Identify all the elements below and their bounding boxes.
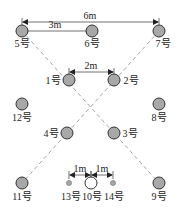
borehole-label: 14号 <box>104 191 124 202</box>
borehole-13: 13号 <box>61 181 81 203</box>
small-hole-icon <box>111 181 116 186</box>
borehole-label: 5号 <box>15 38 30 49</box>
dimension-label: 1m <box>74 163 87 174</box>
filled-hole-icon <box>153 177 165 189</box>
borehole-label: 8号 <box>152 112 167 123</box>
filled-hole-icon <box>61 127 73 139</box>
borehole-14: 14号 <box>104 181 124 203</box>
borehole-label: 12号 <box>12 112 32 123</box>
borehole-label: 7号 <box>156 38 171 49</box>
borehole-4: 4号 <box>44 127 74 139</box>
dimension-d1m_right: 1m <box>91 163 113 179</box>
dimension-label: 3m <box>49 19 62 30</box>
borehole-label: 3号 <box>123 128 138 139</box>
borehole-label: 11号 <box>12 191 32 202</box>
borehole-label: 13号 <box>61 191 81 202</box>
dimension-d1m_left: 1m <box>69 163 91 179</box>
borehole-label: 10号 <box>82 191 102 202</box>
borehole-12: 12号 <box>12 98 32 123</box>
filled-hole-icon <box>108 74 120 86</box>
borehole-label: 6号 <box>85 38 100 49</box>
filled-hole-icon <box>16 98 28 110</box>
filled-hole-icon <box>16 177 28 189</box>
filled-hole-icon <box>153 25 165 37</box>
dimension-label: 6m <box>84 10 97 21</box>
borehole-label: 1号 <box>46 75 61 86</box>
filled-hole-icon <box>108 127 120 139</box>
borehole-6: 6号 <box>85 25 100 49</box>
borehole-layout-diagram: 6m3m2m1m1m 5号6号7号1号2号12号8号4号3号11号13号10号1… <box>0 0 178 216</box>
filled-hole-icon <box>153 98 165 110</box>
borehole-7: 7号 <box>153 25 171 49</box>
borehole-3: 3号 <box>108 127 138 139</box>
filled-hole-icon <box>86 25 98 37</box>
borehole-label: 9号 <box>152 191 167 202</box>
borehole-9: 9号 <box>152 177 167 202</box>
borehole-2: 2号 <box>108 74 139 86</box>
dimension-label: 1m <box>96 163 109 174</box>
dimension-d3m: 3m <box>22 19 92 35</box>
small-hole-icon <box>67 181 72 186</box>
borehole-8: 8号 <box>152 98 167 123</box>
dimension-d2m: 2m <box>69 60 114 76</box>
borehole-label: 4号 <box>44 128 59 139</box>
filled-hole-icon <box>16 25 28 37</box>
diagram-svg: 6m3m2m1m1m 5号6号7号1号2号12号8号4号3号11号13号10号1… <box>0 0 178 216</box>
dimension-label: 2m <box>85 60 98 71</box>
borehole-1: 1号 <box>46 74 76 86</box>
dimension-d6m: 6m <box>22 10 159 26</box>
diagonal-dashed-lines <box>22 31 159 183</box>
hollow-circle-icon <box>85 177 97 189</box>
borehole-11: 11号 <box>12 177 32 202</box>
borehole-label: 2号 <box>124 75 139 86</box>
filled-hole-icon <box>63 74 75 86</box>
borehole-10: 10号 <box>82 177 102 202</box>
